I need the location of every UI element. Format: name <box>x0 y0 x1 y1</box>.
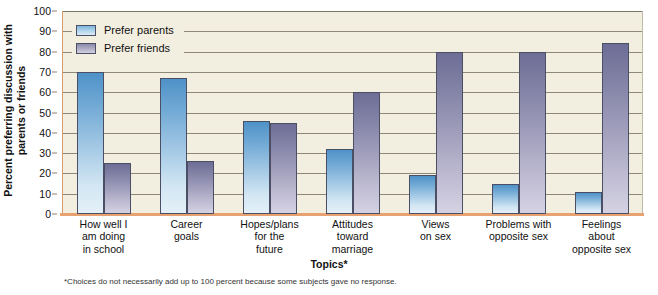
y-tick-mark-80 <box>52 51 57 52</box>
y-tick-mark-10 <box>52 193 57 194</box>
y-axis-title-line-1: Percent preferring discussion with <box>2 24 15 197</box>
y-tick-label-30: 30 <box>39 147 51 159</box>
bar-friends-4 <box>436 52 463 214</box>
y-tick-label-70: 70 <box>39 66 51 78</box>
bar-parents-0 <box>77 72 104 214</box>
chart-legend: Prefer parents Prefer friends <box>72 19 184 60</box>
y-axis-title-line-2: parents or friends <box>14 24 27 197</box>
bar-chart-figure: Percent preferring discussion with paren… <box>0 0 658 295</box>
x-axis-category-labels: How well Iam doingin schoolCareergoalsHo… <box>62 218 643 262</box>
bar-parents-3 <box>326 149 353 214</box>
y-tick-label-40: 40 <box>39 127 51 139</box>
bar-friends-2 <box>270 123 297 214</box>
bar-parents-4 <box>409 175 436 214</box>
y-tick-mark-0 <box>52 214 57 215</box>
category-label-6: Feelingsaboutopposite sex <box>542 218 658 255</box>
bar-friends-0 <box>104 163 131 214</box>
y-tick-label-50: 50 <box>39 107 51 119</box>
bar-friends-5 <box>519 52 546 214</box>
y-tick-label-90: 90 <box>39 25 51 37</box>
x-axis-title: Topics* <box>0 258 658 270</box>
y-tick-label-10: 10 <box>39 188 51 200</box>
legend-item-prefer-parents: Prefer parents <box>76 21 174 39</box>
bar-parents-1 <box>160 78 187 214</box>
y-tick-label-20: 20 <box>39 167 51 179</box>
y-tick-mark-100 <box>52 11 57 12</box>
y-tick-mark-40 <box>52 132 57 133</box>
y-tick-mark-30 <box>52 153 57 154</box>
plot-area: Prefer parents Prefer friends <box>62 11 643 214</box>
legend-label-friends: Prefer friends <box>104 42 170 54</box>
y-tick-mark-50 <box>52 112 57 113</box>
legend-swatch-icon-friends <box>76 43 96 54</box>
legend-label-parents: Prefer parents <box>104 24 174 36</box>
bar-parents-6 <box>575 192 602 214</box>
bar-parents-5 <box>492 184 519 214</box>
y-tick-label-60: 60 <box>39 86 51 98</box>
y-tick-label-100: 100 <box>33 5 51 17</box>
bar-parents-2 <box>243 121 270 214</box>
y-tick-mark-90 <box>52 31 57 32</box>
bar-friends-3 <box>353 92 380 214</box>
legend-swatch-icon-parents <box>76 25 96 36</box>
bar-friends-6 <box>602 43 629 214</box>
y-axis-title: Percent preferring discussion with paren… <box>0 8 28 213</box>
y-tick-mark-60 <box>52 92 57 93</box>
y-axis-tick-labels: 0102030405060708090100 <box>28 0 57 225</box>
chart-footnote: *Choices do not necessarily add up to 10… <box>64 277 397 286</box>
y-tick-mark-20 <box>52 173 57 174</box>
y-tick-mark-70 <box>52 71 57 72</box>
y-tick-label-80: 80 <box>39 46 51 58</box>
legend-item-prefer-friends: Prefer friends <box>76 39 174 57</box>
bar-friends-1 <box>187 161 214 214</box>
